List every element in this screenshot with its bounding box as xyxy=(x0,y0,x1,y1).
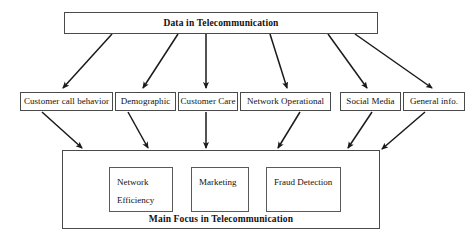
arrow-root-to-general-info xyxy=(355,34,432,88)
focus-node-fraud-detection-line1: Fraud Detection xyxy=(274,174,340,191)
focus-node-fraud-detection[interactable]: Fraud Detection xyxy=(266,167,341,212)
category-node-network-operational[interactable]: Network Operational xyxy=(240,92,331,111)
focus-container: Network Efficiency Marketing Fraud Detec… xyxy=(62,150,380,229)
arrow-root-to-demographic xyxy=(143,34,178,88)
focus-node-network-efficiency[interactable]: Network Efficiency xyxy=(109,167,173,212)
arrow-network-operational-to-focus xyxy=(278,112,300,148)
arrow-general-info-to-focus xyxy=(382,112,425,149)
arrow-root-to-network-operational xyxy=(270,34,287,88)
diagram-canvas: Data in Telecommunication Customer call … xyxy=(0,0,472,246)
focus-caption: Main Focus in Telecommunication xyxy=(63,214,379,224)
arrow-demographic-to-focus xyxy=(128,112,148,148)
focus-node-network-efficiency-line1: Network xyxy=(117,174,172,192)
focus-node-marketing-line1: Marketing xyxy=(199,174,248,191)
arrow-root-to-social-media xyxy=(328,34,367,88)
arrow-customer-call-behavior-to-focus xyxy=(42,112,82,148)
focus-node-network-efficiency-line2: Efficiency xyxy=(117,192,172,210)
category-node-general-info[interactable]: General info. xyxy=(403,92,465,111)
root-node[interactable]: Data in Telecommunication xyxy=(64,12,378,34)
category-node-demographic[interactable]: Demographic xyxy=(115,92,176,111)
focus-node-marketing[interactable]: Marketing xyxy=(191,167,249,212)
category-node-customer-call-behavior[interactable]: Customer call behavior xyxy=(20,92,113,111)
category-node-customer-care[interactable]: Customer Care xyxy=(178,92,238,111)
arrow-social-media-to-focus xyxy=(348,112,372,148)
arrow-root-to-customer-call-behavior xyxy=(63,34,112,88)
category-node-social-media[interactable]: Social Media xyxy=(340,92,401,111)
